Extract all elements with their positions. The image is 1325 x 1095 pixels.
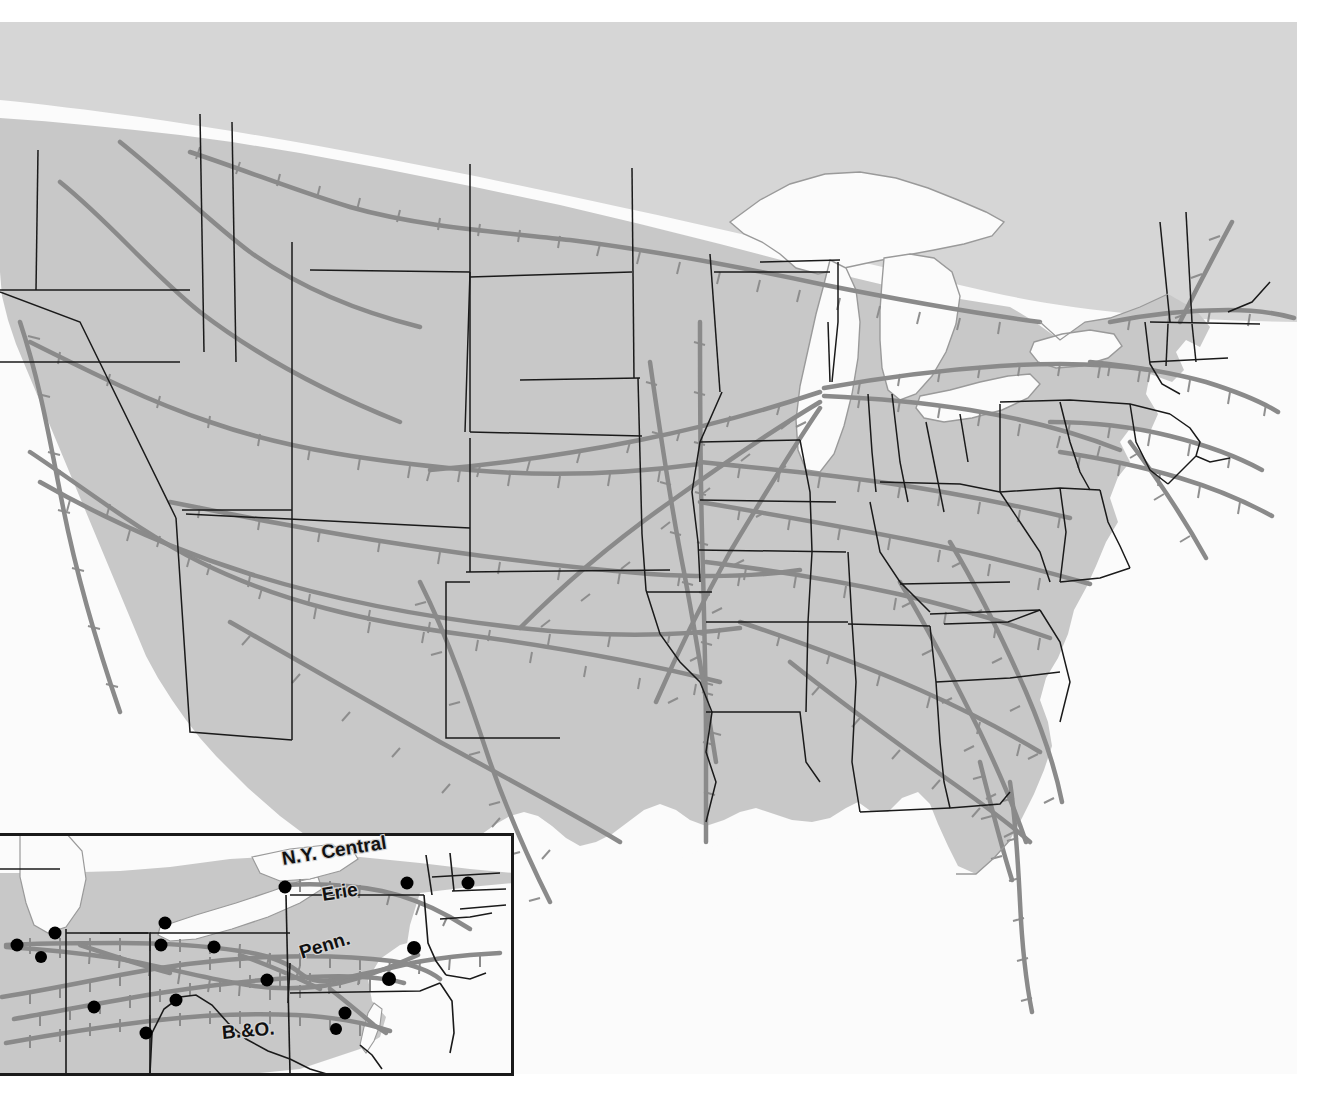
city-dot	[140, 1027, 153, 1040]
inset-border-right	[511, 833, 514, 1076]
city-dot	[88, 1001, 101, 1014]
city-dot	[462, 877, 475, 890]
inset-border-top	[0, 833, 514, 836]
inset-border-bottom	[0, 1073, 514, 1076]
city-dot	[401, 877, 414, 890]
city-dot	[170, 994, 183, 1007]
railroad-label-bo: B.&O.	[221, 1017, 275, 1044]
city-dot	[330, 1023, 342, 1035]
city-dot	[49, 927, 62, 940]
city-dot	[155, 939, 168, 952]
city-dot	[279, 881, 292, 894]
city-dot	[35, 951, 47, 963]
city-dot	[208, 941, 221, 954]
railroad-map-page: N.Y. Central Erie Penn. B.&O.	[0, 0, 1325, 1095]
city-dot	[339, 1007, 352, 1020]
city-dot	[11, 939, 24, 952]
city-dot	[261, 974, 274, 987]
city-dot	[407, 941, 421, 955]
city-dot	[159, 917, 172, 930]
city-dot	[382, 972, 396, 986]
